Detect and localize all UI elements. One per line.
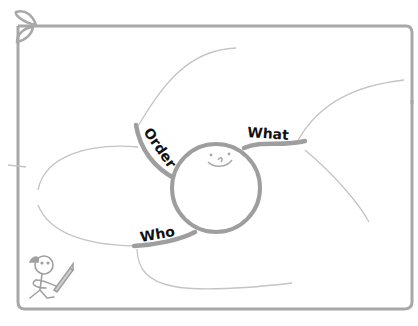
stick-figure-icon	[30, 256, 73, 298]
pencil-icon	[54, 268, 73, 292]
branch-what	[244, 141, 305, 148]
center-node	[172, 144, 260, 232]
branch-label-order: Order	[141, 125, 180, 171]
branch-label-what: What	[247, 124, 290, 143]
mind-map-canvas: Order What Who	[0, 0, 418, 326]
